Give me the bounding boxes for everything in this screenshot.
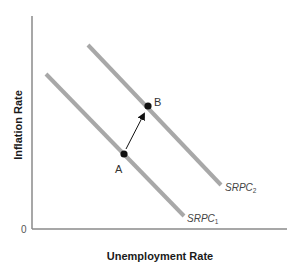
point-a-marker: [120, 150, 127, 157]
srpc1-label-main: SRPC: [187, 213, 216, 224]
phillips-curve-diagram: A B SRPC1 SRPC2 0 Unemployment Rate Infl…: [0, 0, 302, 273]
srpc2-label-main: SRPC: [225, 182, 254, 193]
srpc2-curve: [88, 45, 221, 185]
srpc1-curve: [46, 74, 184, 216]
srpc2-label: SRPC2: [225, 182, 257, 194]
origin-label: 0: [21, 224, 27, 235]
x-axis-title: Unemployment Rate: [107, 250, 213, 262]
y-axis-title: Inflation Rate: [12, 90, 24, 160]
shift-arrow: [126, 114, 144, 149]
point-b-marker: [144, 102, 151, 109]
srpc1-label: SRPC1: [187, 213, 219, 225]
srpc2-label-sub: 2: [253, 187, 257, 194]
srpc1-label-sub: 1: [215, 218, 219, 225]
point-b-label: B: [154, 96, 161, 108]
point-a-label: A: [115, 163, 123, 175]
